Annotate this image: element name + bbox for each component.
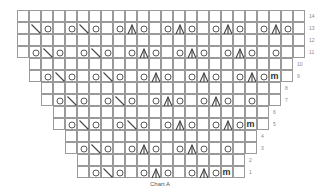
chart-cell — [113, 46, 125, 58]
chart-cell — [185, 22, 197, 34]
chart-cell — [137, 106, 149, 118]
chart-cell — [53, 106, 65, 118]
chart-cell — [113, 22, 125, 34]
chart-cell — [161, 142, 173, 154]
chart-cell — [209, 94, 221, 106]
chart-cell — [101, 82, 113, 94]
chart-cell — [197, 130, 209, 142]
chart-cell — [41, 58, 53, 70]
chart-cell — [209, 154, 221, 166]
chart-cell — [233, 46, 245, 58]
chart-cell — [113, 82, 125, 94]
chart-cell — [125, 142, 137, 154]
chart-cell — [257, 70, 269, 82]
chart-cell — [137, 58, 149, 70]
chart-cell — [185, 94, 197, 106]
chart-cell — [209, 166, 221, 178]
chart-cell — [77, 58, 89, 70]
chart-cell — [209, 58, 221, 70]
chart-cell — [197, 94, 209, 106]
chart-cell — [89, 22, 101, 34]
chart-cell — [161, 94, 173, 106]
chart-cell — [197, 70, 209, 82]
chart-cell — [149, 34, 161, 46]
chart-cell — [149, 22, 161, 34]
chart-cell — [101, 46, 113, 58]
chart-cell: m — [269, 70, 281, 82]
chart-cell — [197, 142, 209, 154]
chart-cell — [185, 46, 197, 58]
chart-cell — [77, 166, 89, 178]
chart-cell — [89, 46, 101, 58]
chart-cell — [185, 34, 197, 46]
chart-cell — [65, 70, 77, 82]
chart-cell — [125, 166, 137, 178]
chart-cell — [161, 58, 173, 70]
chart-cell — [173, 118, 185, 130]
chart-cell — [29, 22, 41, 34]
chart-cell — [269, 34, 281, 46]
chart-cell — [281, 10, 293, 22]
chart-cell — [221, 22, 233, 34]
chart-cell — [29, 70, 41, 82]
chart-cell — [245, 46, 257, 58]
chart-cell — [17, 10, 29, 22]
chart-cell — [149, 94, 161, 106]
chart-cell — [149, 154, 161, 166]
chart-cell — [77, 22, 89, 34]
chart-cell — [101, 22, 113, 34]
chart-cell — [89, 130, 101, 142]
chart-cell — [65, 130, 77, 142]
chart-cell — [257, 10, 269, 22]
chart-cell — [113, 106, 125, 118]
chart-cell — [41, 34, 53, 46]
make-one-icon: m — [246, 118, 254, 130]
chart-cell — [89, 34, 101, 46]
chart-cell — [101, 166, 113, 178]
chart-cell — [125, 10, 137, 22]
chart-cell — [77, 94, 89, 106]
chart-cell — [53, 10, 65, 22]
chart-cell — [173, 142, 185, 154]
chart-cell — [137, 166, 149, 178]
row-number-label: 6 — [273, 109, 276, 115]
row-number-label: 8 — [285, 85, 288, 91]
chart-cell — [233, 34, 245, 46]
chart-cell — [65, 94, 77, 106]
chart-cell — [197, 22, 209, 34]
chart-cell — [245, 34, 257, 46]
chart-cell — [233, 82, 245, 94]
chart-cell — [245, 58, 257, 70]
row-number-label: 12 — [309, 37, 315, 43]
chart-cell — [17, 22, 29, 34]
chart-cell — [233, 22, 245, 34]
chart-cell — [185, 166, 197, 178]
chart-cell — [77, 46, 89, 58]
chart-cell — [233, 94, 245, 106]
chart-cell — [137, 118, 149, 130]
chart-cell — [161, 106, 173, 118]
chart-cell — [125, 46, 137, 58]
chart-cell — [245, 10, 257, 22]
chart-cell — [161, 118, 173, 130]
chart-cell — [221, 46, 233, 58]
chart-cell — [293, 10, 305, 22]
chart-cell — [233, 142, 245, 154]
chart-cell — [89, 94, 101, 106]
chart-cell — [221, 142, 233, 154]
chart-cell — [245, 94, 257, 106]
chart-cell — [77, 34, 89, 46]
chart-cell — [185, 154, 197, 166]
chart-cell — [137, 10, 149, 22]
chart-cell — [257, 94, 269, 106]
chart-cell — [233, 118, 245, 130]
chart-cell — [233, 70, 245, 82]
chart-cell — [209, 34, 221, 46]
chart-cell — [149, 118, 161, 130]
chart-cell — [137, 22, 149, 34]
chart-cell — [161, 22, 173, 34]
chart-cell — [173, 166, 185, 178]
chart-cell — [173, 130, 185, 142]
chart-cell — [77, 130, 89, 142]
chart-cell — [197, 166, 209, 178]
